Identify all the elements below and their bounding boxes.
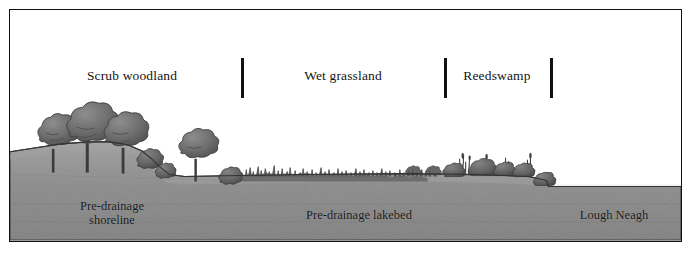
zone-divider-scrub-grassland (241, 58, 244, 98)
ground-label-line: Pre-drainage (80, 200, 144, 214)
ground-label-pre-drainage-lakebed: Pre-drainage lakebed (306, 209, 412, 223)
figure-frame: Scrub woodland Wet grassland Reedswamp P… (9, 9, 682, 242)
zone-divider-grassland-reedswamp (444, 58, 447, 98)
ground-label-line: shoreline (80, 214, 144, 228)
ground-label-line: Lough Neagh (580, 209, 648, 223)
zone-label-reedswamp: Reedswamp (463, 68, 530, 84)
zone-label-scrub-woodland: Scrub woodland (87, 68, 177, 84)
ground-label-pre-drainage-shoreline: Pre-drainage shoreline (80, 200, 144, 227)
ground-label-line: Pre-drainage lakebed (306, 209, 412, 223)
landscape-cross-section-figure: Scrub woodland Wet grassland Reedswamp P… (0, 0, 692, 265)
tree-icon (179, 128, 219, 181)
zone-divider-reedswamp-water (550, 58, 553, 98)
ground-label-lough-neagh: Lough Neagh (580, 209, 648, 223)
zone-label-wet-grassland: Wet grassland (304, 68, 382, 84)
